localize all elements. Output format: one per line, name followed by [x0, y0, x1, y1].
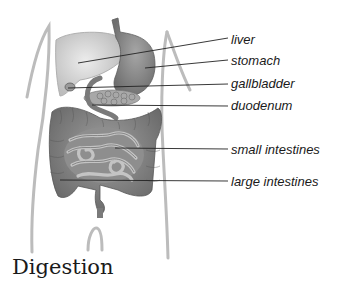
diagram-title: Digestion	[12, 257, 114, 278]
gallbladder-organ	[65, 83, 75, 91]
label-duodenum: duodenum	[231, 99, 292, 112]
label-gallbladder: gallbladder	[231, 77, 295, 90]
label-large-intestines: large intestines	[231, 175, 318, 188]
label-small-intestines: small intestines	[231, 143, 320, 156]
label-stomach: stomach	[231, 54, 280, 67]
label-liver: liver	[231, 33, 255, 46]
rectum-organ	[97, 208, 103, 218]
small-intestine-organ	[64, 127, 144, 183]
leader-stomach	[145, 60, 228, 68]
